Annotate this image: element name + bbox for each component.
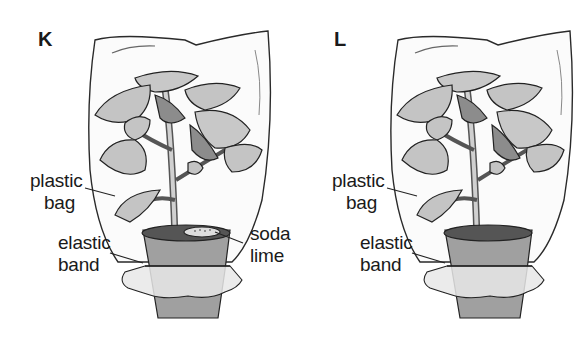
label-line: lime [250, 245, 290, 267]
panel-label-l: L [334, 28, 346, 51]
label-plastic-bag: plastic bag [30, 170, 82, 214]
panel-label-k: K [38, 28, 52, 51]
label-line: plastic [30, 170, 82, 192]
label-line: bag [332, 192, 384, 214]
label-line: band [360, 254, 412, 276]
pot-rim [444, 225, 532, 241]
bag-ruffle [424, 266, 544, 298]
label-line: soda [250, 223, 290, 245]
label-line: plastic [332, 170, 384, 192]
label-line: bag [30, 192, 82, 214]
label-line: band [58, 254, 110, 276]
label-line: elastic [360, 232, 412, 254]
label-elastic-band: elastic band [360, 232, 412, 276]
soda-lime-dish [184, 227, 220, 237]
label-plastic-bag: plastic bag [332, 170, 384, 214]
label-elastic-band: elastic band [58, 232, 110, 276]
bag-ruffle [122, 266, 242, 298]
panel-k: K plastic bag elastic band soda lime [0, 0, 294, 339]
label-line: elastic [58, 232, 110, 254]
label-soda-lime: soda lime [250, 223, 290, 267]
panel-l: L plastic bag elastic band [294, 0, 588, 339]
